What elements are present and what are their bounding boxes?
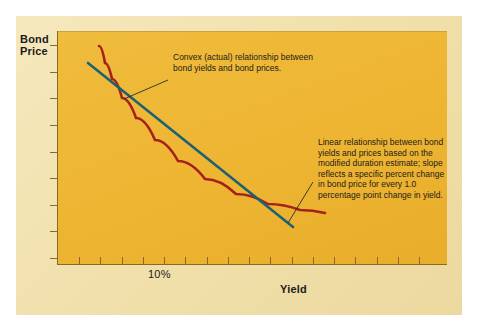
convex-leader	[124, 80, 168, 99]
figure-container: Bond Price Yield 10% Convex (actual) rel…	[0, 0, 482, 331]
convex-curve	[99, 46, 325, 213]
linear-leader	[288, 182, 313, 223]
linear-line	[88, 63, 293, 227]
chart-curves-overlay	[0, 0, 482, 331]
leader-lines	[124, 80, 313, 223]
